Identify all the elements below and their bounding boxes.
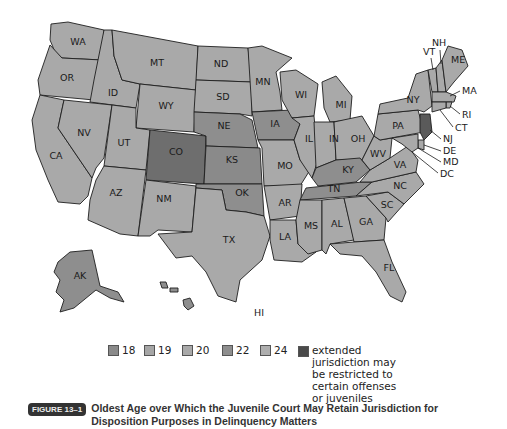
swatch-18 — [108, 345, 119, 356]
label-OR: OR — [60, 72, 74, 83]
label-CT: CT — [455, 122, 468, 133]
label-LA: LA — [279, 231, 292, 242]
legend-label-extended: extended jurisdiction may be restricted … — [312, 344, 402, 404]
label-TN: TN — [327, 183, 341, 194]
label-MO: MO — [277, 160, 293, 171]
label-DE: DE — [443, 145, 456, 156]
label-KS: KS — [226, 154, 238, 165]
label-PA: PA — [392, 120, 404, 131]
label-NV: NV — [77, 127, 91, 138]
label-RI: RI — [462, 109, 471, 120]
state-KS — [204, 146, 262, 184]
label-IL: IL — [305, 133, 314, 144]
state-NY — [378, 70, 432, 114]
caption-text: Oldest Age over Which the Juvenile Court… — [91, 402, 488, 428]
figure-badge: FIGURE 13–1 — [28, 403, 86, 416]
label-ME: ME — [451, 54, 465, 65]
state-MA — [432, 92, 456, 102]
label-MT: MT — [150, 57, 164, 68]
label-KY: KY — [342, 164, 354, 175]
state-AK — [54, 250, 124, 312]
state-FL — [330, 240, 406, 302]
leader-CT — [440, 110, 453, 127]
label-OH: OH — [351, 133, 366, 144]
label-NY: NY — [407, 94, 420, 105]
state-AZ — [88, 166, 146, 236]
label-AZ: AZ — [109, 187, 122, 198]
legend-item-19: 19 — [144, 344, 171, 356]
leader-RI — [450, 106, 460, 114]
state-HI — [183, 298, 194, 310]
label-AR: AR — [278, 197, 291, 208]
label-NJ: NJ — [443, 133, 453, 144]
label-ID: ID — [108, 87, 118, 98]
label-TX: TX — [222, 234, 236, 245]
legend-item-24: 24 — [260, 344, 287, 356]
label-AK: AK — [74, 270, 87, 281]
state-NM — [138, 180, 196, 236]
label-MA: MA — [462, 85, 477, 96]
swatch-20 — [182, 345, 193, 356]
label-CA: CA — [49, 150, 63, 161]
label-NE: NE — [217, 120, 230, 131]
label-GA: GA — [359, 216, 373, 227]
leader-NJ — [430, 130, 441, 139]
swatch-24 — [260, 345, 271, 356]
state-CO — [146, 130, 206, 184]
leader-VT — [431, 58, 433, 70]
legend-item-18: 18 — [108, 344, 135, 356]
label-FL: FL — [384, 262, 395, 273]
label-SD: SD — [216, 91, 229, 102]
state-NJ — [420, 114, 432, 140]
swatch-19 — [144, 345, 155, 356]
label-OK: OK — [235, 187, 249, 198]
legend-item-20: 20 — [182, 344, 209, 356]
legend-label-22: 22 — [236, 344, 249, 356]
label-VA: VA — [394, 159, 407, 170]
state-CT — [432, 102, 446, 112]
label-MI: MI — [336, 99, 347, 110]
legend-label-19: 19 — [158, 344, 171, 356]
label-WI: WI — [295, 89, 307, 100]
swatch-22 — [222, 345, 233, 356]
leader-DE — [424, 145, 441, 151]
label-HI: HI — [254, 307, 264, 318]
us-map: WA OR CA ID NV MT WY UT CO AZ NM ND SD N… — [0, 0, 507, 340]
figure-caption: FIGURE 13–1 Oldest Age over Which the Ju… — [28, 402, 488, 428]
label-WY: WY — [158, 100, 173, 111]
legend-item-extended: extended jurisdiction may be restricted … — [298, 344, 402, 404]
label-AL: AL — [331, 218, 343, 229]
label-WV: WV — [370, 148, 386, 159]
legend-item-22: 22 — [222, 344, 249, 356]
label-DC: DC — [440, 168, 454, 179]
legend-label-18: 18 — [122, 344, 135, 356]
label-IN: IN — [329, 133, 339, 144]
label-NM: NM — [156, 193, 171, 204]
label-UT: UT — [118, 137, 131, 148]
label-MN: MN — [255, 76, 270, 87]
state-HI-3 — [170, 288, 178, 292]
label-SC: SC — [381, 199, 394, 210]
label-NH: NH — [432, 37, 446, 48]
label-CO: CO — [169, 146, 183, 157]
label-IA: IA — [270, 118, 280, 129]
legend-label-24: 24 — [274, 344, 287, 356]
label-MS: MS — [304, 220, 318, 231]
state-HI-2 — [160, 282, 168, 288]
label-NC: NC — [393, 180, 407, 191]
label-WA: WA — [70, 36, 86, 47]
legend-label-20: 20 — [196, 344, 209, 356]
swatch-extended — [298, 346, 309, 357]
label-ND: ND — [214, 58, 228, 69]
label-MD: MD — [443, 156, 459, 167]
